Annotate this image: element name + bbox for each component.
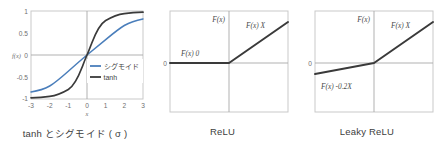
x-tick-neg1: -1: [65, 102, 71, 109]
x-axis-label: x: [85, 110, 89, 117]
annotation-fx-top: F(x): [356, 15, 370, 24]
y-tick-0: 0: [163, 60, 167, 67]
x-tick-2: 2: [122, 102, 126, 109]
panel-tanh-sigmoid: 1 0.5 0 -0.5 -1 f(x) -3 -2 -1 0 1 2 3 x: [0, 0, 150, 154]
legend-label-tanh: tanh: [104, 74, 118, 81]
y-tick-0p5: 0.5: [19, 30, 28, 37]
tanh-sigmoid-plot: 1 0.5 0 -0.5 -1 f(x) -3 -2 -1 0 1 2 3 x: [0, 0, 150, 126]
caption-tanh-sigmoid: tanh とシグモイド ( σ ): [0, 126, 150, 140]
annotation-fx-top: F(x): [211, 15, 225, 24]
panel-leaky-relu: 0 F(x) F(x) X F(x) -0.2X Leaky ReLU: [295, 0, 439, 154]
y-tick-0: 0: [24, 52, 28, 59]
x-tick-0: 0: [85, 102, 89, 109]
x-tick-1: 1: [104, 102, 108, 109]
panel-relu: 0 F(x) F(x) X F(x) 0 ReLU: [150, 0, 295, 154]
legend-label-sigmoid: シグモイド: [104, 62, 139, 71]
x-tick-3: 3: [141, 102, 145, 109]
y-tick-neg1: -1: [22, 95, 28, 102]
annotation-fx-zero: F(x) 0: [180, 49, 200, 58]
caption-relu: ReLU: [150, 126, 295, 137]
x-tick-neg2: -2: [47, 102, 53, 109]
y-tick-0: 0: [308, 60, 312, 67]
y-axis-label: f(x): [12, 52, 21, 60]
activation-functions-figure: 1 0.5 0 -0.5 -1 f(x) -3 -2 -1 0 1 2 3 x: [0, 0, 439, 154]
annotation-fx-positive: F(x) X: [245, 21, 266, 30]
x-tick-neg3: -3: [28, 102, 34, 109]
leaky-relu-plot: 0 F(x) F(x) X F(x) -0.2X: [295, 0, 439, 126]
caption-leaky-relu: Leaky ReLU: [295, 126, 439, 137]
y-tick-neg0p5: -0.5: [17, 74, 29, 81]
y-tick-1: 1: [24, 8, 28, 15]
legend: シグモイド tanh: [87, 59, 143, 83]
annotation-fx-negative: F(x) -0.2X: [320, 82, 352, 91]
relu-plot: 0 F(x) F(x) X F(x) 0: [150, 0, 295, 126]
annotation-fx-positive: F(x) X: [390, 21, 411, 30]
